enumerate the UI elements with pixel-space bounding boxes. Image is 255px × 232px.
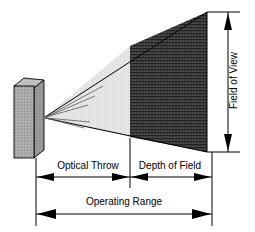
depth-of-field-label: Depth of Field	[132, 160, 208, 171]
extension-lines	[36, 138, 212, 226]
projector-body	[14, 78, 44, 158]
optical-throw-dimension	[36, 173, 130, 181]
optical-throw-label: Optical Throw	[48, 160, 128, 171]
optical-throw-region	[45, 46, 130, 137]
operating-range-dimension	[36, 209, 212, 219]
depth-of-field-region	[130, 12, 207, 152]
operating-range-label: Operating Range	[36, 196, 212, 207]
depth-of-field-dimension	[130, 173, 212, 181]
field-of-view-label: Field of View	[228, 52, 239, 109]
